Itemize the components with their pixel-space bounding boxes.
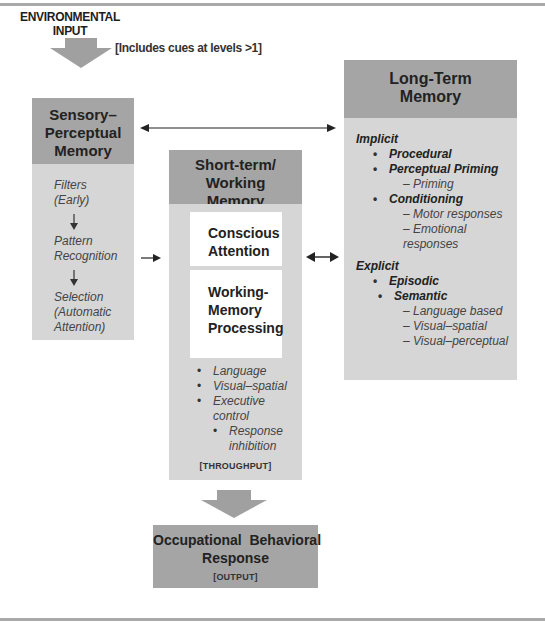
bullet-executive: Executive [213, 394, 287, 409]
sensory-header: Sensory– Perceptual Memory [32, 98, 134, 164]
sub-visual-perceptual: – Visual–perceptual [389, 334, 508, 349]
bullet-language: Language [213, 364, 287, 379]
processing-line3: Processing [208, 319, 282, 337]
stm-ltm-double-arrow-icon [306, 252, 339, 262]
step-line: (Early) [54, 193, 89, 208]
item-episodic: Episodic [389, 274, 508, 289]
sensory-title-line2: Perceptual [32, 124, 134, 142]
step-line: Filters [54, 178, 89, 193]
long-term-memory-box: Long-Term Memory Implicit Procedural Per… [344, 60, 517, 380]
bottom-rule [0, 618, 545, 621]
sub-motor-responses: – Motor responses [389, 207, 517, 222]
env-input-line1: ENVIRONMENTAL [8, 10, 132, 24]
top-rule [0, 3, 545, 6]
sensory-step-filters: Filters (Early) [54, 178, 89, 208]
implicit-heading: Implicit [356, 132, 517, 147]
stm-header: Short-term/ Working Memory [169, 150, 302, 204]
sub-bullet-line1: Response [229, 424, 287, 439]
sub-bullet-line2: inhibition [229, 439, 287, 454]
item-conditioning: Conditioning [389, 192, 517, 207]
sub-priming: – Priming [389, 177, 517, 192]
output-title-line2: Response [153, 549, 318, 567]
sub-emotional-responses: – Emotional responses [389, 222, 517, 252]
conscious-attention-box: Conscious Attention [190, 212, 282, 266]
sensory-perceptual-memory-box: Sensory– Perceptual Memory Filters (Earl… [32, 98, 134, 340]
item-procedural: Procedural [389, 147, 517, 162]
step-line: Selection [54, 290, 111, 305]
env-input-line2: INPUT [8, 24, 132, 38]
sensory-body: Filters (Early) Pattern Recognition Sele… [32, 164, 134, 340]
ltm-body: Implicit Procedural Perceptual Priming –… [344, 118, 517, 380]
item-semantic: Semantic [394, 289, 513, 304]
step-line: Attention) [54, 320, 111, 335]
output-title-line1: Occupational Behavioral [153, 525, 318, 549]
working-memory-processing-box: Working- Memory Processing [190, 270, 282, 358]
output-tag: [OUTPUT] [153, 572, 318, 582]
sensory-to-stm-arrow-icon [141, 253, 161, 263]
input-note: [Includes cues at levels >1] [115, 41, 262, 55]
stm-title-line2: Working [169, 174, 302, 192]
step-line: (Automatic [54, 305, 111, 320]
ltm-title-line2: Memory [344, 88, 517, 106]
sensory-title-line3: Memory [32, 142, 134, 160]
explicit-heading: Explicit [356, 259, 508, 274]
processing-line1: Working- [208, 283, 282, 301]
stm-title-line1: Short-term/ [169, 156, 302, 174]
explicit-section: Explicit Episodic Semantic – Language ba… [356, 259, 508, 349]
ltm-title-line1: Long-Term [344, 70, 517, 88]
sensory-title-line1: Sensory– [32, 106, 134, 124]
down-arrow-icon [70, 270, 78, 286]
environmental-input-label: ENVIRONMENTAL INPUT [8, 10, 132, 38]
input-down-arrow-icon [50, 38, 112, 68]
bullet-executive-control-cont: control [213, 409, 287, 424]
step-line: Pattern [54, 234, 117, 249]
conscious-line1: Conscious [208, 224, 282, 242]
item-perceptual-priming: Perceptual Priming [389, 162, 517, 177]
ltm-header: Long-Term Memory [344, 60, 517, 118]
sub-bullet-response-inhibition: Response inhibition [213, 424, 287, 454]
sub-visual-spatial: – Visual–spatial [389, 319, 508, 334]
short-term-working-memory-box: Short-term/ Working Memory Conscious Att… [169, 150, 302, 480]
bullet-visual-spatial: Visual–spatial [213, 379, 287, 394]
throughput-tag: [THROUGHPUT] [169, 461, 302, 471]
sensory-step-pattern-recognition: Pattern Recognition [54, 234, 117, 264]
stm-bullet-list: Language Visual–spatial Executive contro… [213, 364, 287, 454]
conscious-line2: Attention [208, 242, 282, 260]
down-arrow-icon [70, 214, 78, 230]
step-line: Recognition [54, 249, 117, 264]
processing-line2: Memory [208, 301, 282, 319]
output-down-arrow-icon [201, 490, 267, 518]
stm-body: Conscious Attention Working- Memory Proc… [169, 204, 302, 480]
sub-language-based: – Language based [389, 304, 508, 319]
sensory-step-selection: Selection (Automatic Attention) [54, 290, 111, 335]
occupational-behavioral-response-box: Occupational Behavioral Response [OUTPUT… [153, 525, 318, 588]
sensory-ltm-double-arrow-icon [140, 123, 336, 133]
implicit-section: Implicit Procedural Perceptual Priming –… [356, 132, 517, 252]
